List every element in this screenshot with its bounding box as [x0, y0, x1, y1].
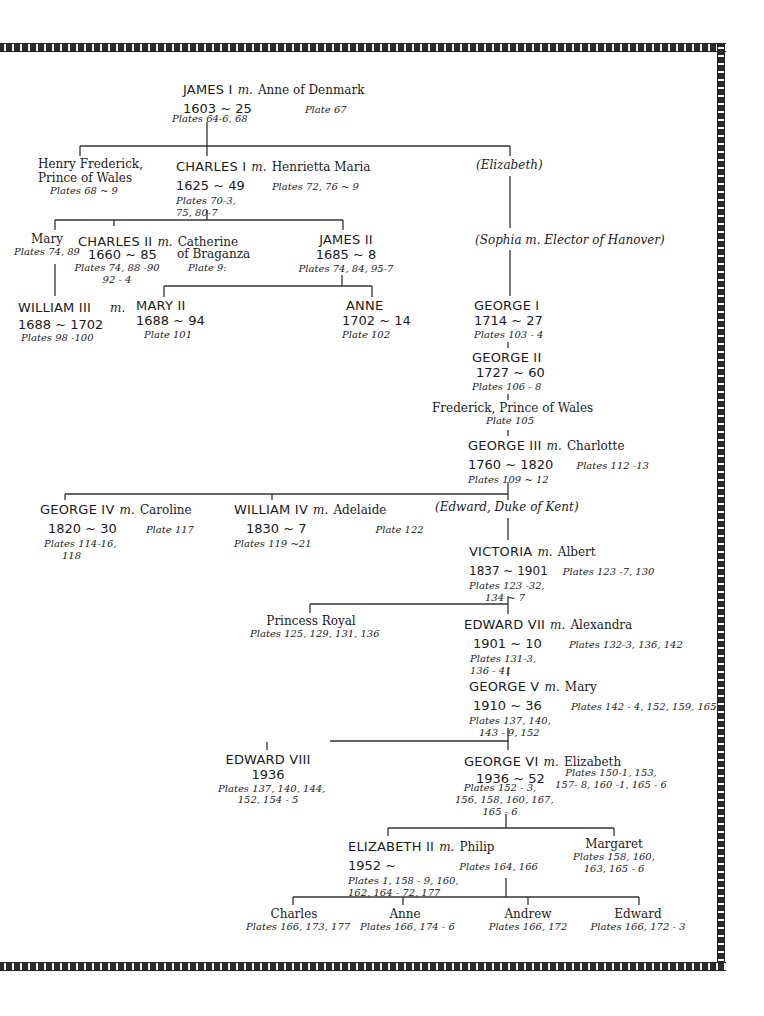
plates: Plates 74, 84, 95-7: [298, 263, 394, 275]
monarch-name: GEORGE I: [474, 298, 543, 313]
plates-george-vi: Plates 152 - 3, 156, 158, 160, 167, 165 …: [455, 782, 545, 817]
monarch-name: GEORGE VI: [464, 754, 539, 769]
plates: Plates 114-16,: [40, 538, 194, 550]
monarch-name: GEORGE IV: [40, 502, 115, 517]
plates: 92 - 4: [72, 274, 162, 286]
plates: 134 ~ 7: [469, 592, 654, 604]
marriage-marker: m.: [439, 840, 454, 854]
plates: 118: [40, 550, 194, 562]
plates: Plates 166, 174 - 6: [360, 921, 450, 933]
monarch-name: ELIZABETH II: [348, 839, 434, 854]
node-charles: Charles Plates 166, 173, 177: [246, 907, 342, 933]
person-name: Princess Royal: [250, 614, 372, 628]
spouse-plates: Plate 122: [376, 524, 424, 535]
plates-charles-ii: Plates 74, 88 -90 92 - 4: [72, 262, 162, 286]
node-margaret: Margaret Plates 158, 160, 163, 165 - 6: [572, 837, 656, 875]
node-george-ii: GEORGE II 1727 ~ 60 Plates 106 - 8: [472, 350, 545, 392]
node-mary-orange: Mary Plates 74, 89: [12, 232, 82, 258]
person-name: Charles: [246, 907, 342, 921]
plates-james-i: Plates 64-6, 68: [172, 113, 248, 125]
reign-dates: 1714 ~ 27: [474, 313, 543, 328]
spouse-name-line2: of Braganza: [177, 247, 250, 261]
person-name: Frederick, Prince of Wales: [432, 401, 588, 415]
plates: Plates 106 - 8: [472, 381, 545, 393]
marriage-marker: m.: [110, 301, 125, 315]
spouse-plates: Plates 72, 76 ~ 9: [272, 181, 359, 192]
plates: 156, 158, 160, 167,: [455, 794, 545, 806]
monarch-name: GEORGE III: [468, 438, 541, 453]
spouse-plates: Plates 112 -13: [576, 460, 649, 471]
spouse-plates: Plates 123 -7, 130: [563, 566, 655, 577]
person-title: Prince of Wales: [38, 171, 130, 185]
reign-dates: 1936: [218, 767, 318, 782]
reign-dates: 1688 ~ 1702: [18, 317, 125, 332]
plates: Plates 74, 89: [12, 246, 82, 258]
node-henry-frederick: Henry Frederick, Prince of Wales Plates …: [38, 157, 130, 197]
person-name: Margaret: [572, 837, 656, 851]
reign-dates: 1760 ~ 1820: [468, 457, 553, 472]
marriage-marker: m.: [545, 680, 560, 694]
node-edward-vii: EDWARD VII m. Alexandra 1901 ~ 10 Plates…: [464, 615, 683, 676]
spouse-name: Anne of Denmark: [258, 83, 365, 97]
spouse-name: Adelaide: [333, 503, 386, 517]
plates: 165 - 6: [455, 806, 545, 818]
monarch-name: EDWARD VII: [464, 617, 545, 632]
spouse-plates: Plates 132-3, 136, 142: [569, 639, 683, 650]
spouse-plates: Plates 142 - 4, 152, 159, 165: [571, 701, 717, 712]
marriage-marker: m.: [120, 503, 135, 517]
plates: Plates 137, 140,: [469, 715, 717, 727]
spouse-plates: Plates 164, 166: [459, 861, 538, 872]
node-george-i: GEORGE I 1714 ~ 27 Plates 103 - 4: [474, 298, 543, 340]
reign-dates: 1952 ~: [348, 858, 396, 873]
plates: Plates 119 ~21: [234, 538, 424, 550]
monarch-name: ANNE: [342, 298, 411, 313]
reign-dates: 1702 ~ 14: [342, 313, 411, 328]
plates: Plates 166, 172 - 3: [590, 921, 686, 933]
monarch-name: JAMES I: [183, 82, 233, 97]
reign-dates-charles-ii: 1660 ~ 85: [88, 247, 157, 262]
marriage-marker: m.: [157, 235, 172, 249]
person-name: Andrew: [486, 907, 570, 921]
spouse-plates: Plate 67: [305, 104, 347, 115]
node-george-iv: GEORGE IV m. Caroline 1820 ~ 30 Plate 11…: [40, 500, 194, 561]
monarch-name: WILLIAM III: [18, 300, 91, 315]
marriage-marker: m.: [547, 439, 562, 453]
node-victoria: VICTORIA m. Albert 1837 ~ 1901 Plates 12…: [469, 542, 654, 603]
monarch-name: CHARLES I: [176, 159, 246, 174]
node-william-iv: WILLIAM IV m. Adelaide 1830 ~ 7 Plate 12…: [234, 500, 424, 550]
node-elizabeth-ii: ELIZABETH II m. Philip 1952 ~ Plates 164…: [348, 837, 538, 898]
plates: Plates 152 - 3,: [455, 782, 545, 794]
marriage-marker: m.: [550, 618, 565, 632]
node-mary-ii: MARY II 1688 ~ 94 Plate 101: [136, 298, 205, 340]
node-william-iii: WILLIAM III m. 1688 ~ 1702 Plates 98 -10…: [18, 298, 125, 344]
monarch-name: MARY II: [136, 298, 205, 313]
monarch-name: EDWARD VIII: [218, 752, 318, 767]
node-frederick: Frederick, Prince of Wales Plate 105: [432, 401, 588, 427]
node-anne-princess: Anne Plates 166, 174 - 6: [360, 907, 450, 933]
monarch-name: JAMES II: [298, 232, 394, 247]
node-edward-duke-of-kent: (Edward, Duke of Kent): [435, 500, 579, 514]
spouse-name: Alexandra: [570, 618, 632, 632]
plates: 157- 8, 160 -1, 165 - 6: [555, 779, 667, 791]
reign-dates: 1625 ~ 49: [176, 178, 245, 193]
node-anne: ANNE 1702 ~ 14 Plate 102: [342, 298, 411, 340]
monarch-name: WILLIAM IV: [234, 502, 308, 517]
reign-dates: 1910 ~ 36: [469, 698, 542, 713]
spouse-plates-catherine: Plate 9:: [188, 262, 227, 274]
node-andrew: Andrew Plates 166, 172: [486, 907, 570, 933]
spouse-name: Mary: [565, 680, 597, 694]
marriage-marker: m.: [251, 160, 266, 174]
person-name: Henry Frederick,: [38, 157, 130, 171]
reign-dates: 1727 ~ 60: [472, 365, 545, 380]
plates: Plate 102: [342, 329, 411, 341]
marriage-marker: m.: [238, 83, 253, 97]
plates: 152, 154 - 5: [218, 794, 318, 806]
reign-dates: 1688 ~ 94: [136, 313, 205, 328]
reign-dates: 1685 ~ 8: [298, 247, 394, 262]
plates: 136 - 41: [464, 665, 683, 677]
plates: Plates 70-3,: [176, 195, 370, 207]
plates: Plates 68 ~ 9: [38, 185, 130, 197]
spouse-name: Albert: [558, 545, 596, 559]
monarch-name: GEORGE V: [469, 679, 539, 694]
person-name: Edward: [590, 907, 686, 921]
